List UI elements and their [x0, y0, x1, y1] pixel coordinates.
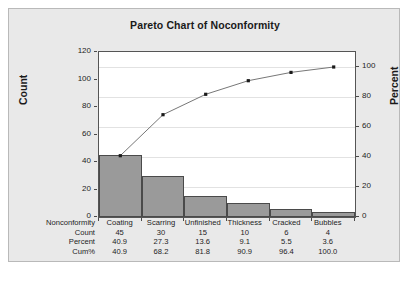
cell-percent-5: 3.6	[307, 237, 348, 247]
plot-inner	[99, 52, 355, 217]
cell-category-4: Cracked	[266, 218, 307, 228]
page-title: Pareto Chart of Noconformity	[9, 19, 401, 31]
right-tick-label-20: 20	[362, 181, 388, 190]
left-tick-label-120: 120	[65, 46, 91, 55]
cell-percent-2: 13.6	[182, 237, 224, 247]
cum-marker-0	[119, 154, 122, 157]
left-tick-mark	[94, 134, 97, 135]
left-tick-label-100: 100	[65, 74, 91, 83]
cell-count-2: 15	[182, 228, 224, 238]
right-tick-mark	[356, 156, 359, 157]
left-tick-mark	[94, 216, 97, 217]
cell-category-0: Coating	[99, 218, 140, 228]
cum-marker-4	[289, 71, 292, 74]
cell-percent-3: 9.1	[224, 237, 266, 247]
left-tick-mark	[94, 189, 97, 190]
chart-panel: Pareto Chart of Noconformity Count Perce…	[8, 8, 400, 262]
table-pad	[348, 218, 389, 228]
chart-screenshot: Pareto Chart of Noconformity Count Perce…	[0, 0, 418, 282]
right-tick-label-40: 40	[362, 151, 388, 160]
plot-area	[98, 51, 356, 218]
table-row-count: Count 45 30 15 10 6 4	[23, 228, 389, 238]
cell-count-3: 10	[224, 228, 266, 238]
row-label-cumpct: Cum%	[23, 247, 99, 257]
right-tick-mark	[356, 216, 359, 217]
cell-category-3: Thickness	[224, 218, 266, 228]
cum-marker-5	[332, 65, 335, 68]
cell-cumpct-5: 100.0	[307, 247, 348, 257]
table-row-cumpct: Cum% 40.9 68.2 81.8 90.9 96.4 100.0	[23, 247, 389, 257]
cell-percent-1: 27.3	[140, 237, 181, 247]
left-tick-mark	[94, 79, 97, 80]
cell-percent-0: 40.9	[99, 237, 140, 247]
cell-category-5: Bubbles	[307, 218, 348, 228]
cum-marker-3	[247, 79, 250, 82]
cell-cumpct-1: 68.2	[140, 247, 181, 257]
left-tick-label-80: 80	[65, 101, 91, 110]
cumulative-line	[120, 67, 333, 156]
right-tick-mark	[356, 66, 359, 67]
left-tick-mark	[94, 51, 97, 52]
cell-count-4: 6	[266, 228, 307, 238]
table-row-nonconformity: Nonconformity Coating Scarring Unfinishe…	[23, 218, 389, 228]
left-tick-label-40: 40	[65, 156, 91, 165]
cum-marker-1	[161, 113, 164, 116]
right-tick-label-100: 100	[362, 61, 388, 70]
cell-category-1: Scarring	[140, 218, 181, 228]
right-tick-label-80: 80	[362, 91, 388, 100]
table-pad	[348, 237, 389, 247]
table-pad	[348, 247, 389, 257]
cum-marker-2	[204, 93, 207, 96]
data-table: Nonconformity Coating Scarring Unfinishe…	[23, 218, 389, 256]
cell-percent-4: 5.5	[266, 237, 307, 247]
cell-cumpct-3: 90.9	[224, 247, 266, 257]
cell-cumpct-0: 40.9	[99, 247, 140, 257]
y-axis-label-count: Count	[17, 75, 29, 105]
row-label-count: Count	[23, 228, 99, 238]
cell-count-5: 4	[307, 228, 348, 238]
cell-cumpct-4: 96.4	[266, 247, 307, 257]
cell-count-1: 30	[140, 228, 181, 238]
right-tick-mark	[356, 186, 359, 187]
cell-category-2: Unfinished	[182, 218, 224, 228]
row-label-percent: Percent	[23, 237, 99, 247]
cumulative-markers	[119, 65, 336, 157]
left-tick-mark	[94, 106, 97, 107]
row-label-nonconformity: Nonconformity	[23, 218, 99, 228]
table-row-percent: Percent 40.9 27.3 13.6 9.1 5.5 3.6	[23, 237, 389, 247]
cell-count-0: 45	[99, 228, 140, 238]
left-tick-label-20: 20	[65, 184, 91, 193]
right-tick-mark	[356, 96, 359, 97]
left-tick-label-60: 60	[65, 129, 91, 138]
y-axis-label-percent: Percent	[388, 66, 400, 105]
left-tick-mark	[94, 161, 97, 162]
right-tick-mark	[356, 126, 359, 127]
cumulative-line-series	[99, 52, 355, 217]
table-pad	[348, 228, 389, 238]
right-tick-label-60: 60	[362, 121, 388, 130]
cell-cumpct-2: 81.8	[182, 247, 224, 257]
